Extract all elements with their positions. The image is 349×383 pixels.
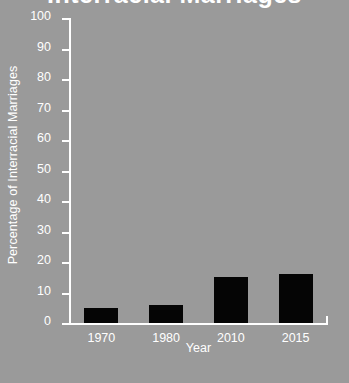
y-axis-tick-label: 90 xyxy=(37,40,51,54)
y-axis-tick-label: 70 xyxy=(37,101,51,115)
y-axis-line xyxy=(69,18,71,325)
bar xyxy=(84,308,118,323)
y-axis-tick: 30 xyxy=(62,232,69,234)
y-axis-tick: 10 xyxy=(62,293,69,295)
y-axis-tick-label: 80 xyxy=(37,70,51,84)
x-axis-end-tick xyxy=(326,316,328,325)
y-axis-tick-label: 60 xyxy=(37,131,51,145)
bar xyxy=(214,277,248,323)
chart-title: Interracial Marriages xyxy=(0,0,349,9)
y-axis-tick: 60 xyxy=(62,140,69,142)
x-axis-line xyxy=(69,323,328,325)
y-axis-tick-label: 0 xyxy=(44,314,51,328)
y-axis-tick-label: 10 xyxy=(37,284,51,298)
y-axis-tick-label: 30 xyxy=(37,223,51,237)
y-axis-tick-label: 100 xyxy=(30,9,51,23)
y-axis-tick-label: 50 xyxy=(37,162,51,176)
y-axis-tick: 100 xyxy=(62,18,69,20)
y-axis-tick-label: 40 xyxy=(37,192,51,206)
y-axis-tick: 0 xyxy=(62,323,69,325)
x-axis-label: Year xyxy=(69,341,328,355)
bar xyxy=(279,274,313,323)
plot-area: 1009080706050403020100 1970198020102015 xyxy=(69,18,328,325)
y-axis-tick: 40 xyxy=(62,201,69,203)
y-axis-tick: 90 xyxy=(62,49,69,51)
y-axis-tick: 50 xyxy=(62,171,69,173)
y-axis-tick: 70 xyxy=(62,110,69,112)
y-axis-tick: 80 xyxy=(62,79,69,81)
y-axis-label-text: Percentage of Interracial Marriages xyxy=(6,66,20,265)
y-axis-tick: 20 xyxy=(62,262,69,264)
y-axis-tick-label: 20 xyxy=(37,253,51,267)
bar xyxy=(149,305,183,323)
y-axis-label: Percentage of Interracial Marriages xyxy=(0,0,26,330)
